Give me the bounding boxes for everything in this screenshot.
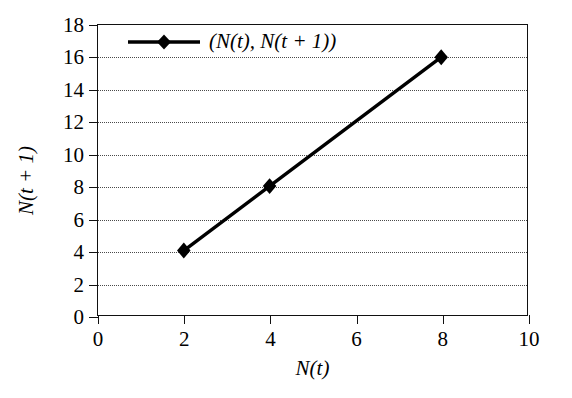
- y-tick-mark: [89, 285, 98, 286]
- y-tick-mark: [89, 187, 98, 188]
- x-tick-label: 4: [265, 329, 276, 350]
- y-tick-mark: [89, 25, 98, 26]
- x-tick-mark: [270, 315, 271, 324]
- x-tick-label: 0: [93, 329, 104, 350]
- x-tick-mark: [529, 315, 530, 324]
- y-tick-mark: [89, 90, 98, 91]
- y-tick-label: 18: [63, 15, 84, 36]
- y-tick-label: 8: [74, 177, 85, 198]
- legend-marker-icon: [128, 33, 200, 51]
- y-tick-label: 2: [74, 274, 85, 295]
- series-line: [184, 57, 441, 250]
- legend-label: (N(t), N(t + 1)): [209, 31, 336, 52]
- legend: (N(t), N(t + 1)): [128, 31, 336, 52]
- y-tick-mark: [89, 252, 98, 253]
- x-tick-mark: [443, 315, 444, 324]
- y-axis-title: N(t + 1): [16, 81, 37, 281]
- y-tick-label: 16: [63, 47, 84, 68]
- y-tick-mark: [89, 122, 98, 123]
- x-axis-title-text: N(t): [296, 356, 330, 380]
- y-tick-label: 6: [74, 209, 85, 230]
- y-tick-mark: [89, 317, 98, 318]
- y-tick-mark: [89, 155, 98, 156]
- x-tick-label: 8: [438, 329, 449, 350]
- y-tick-mark: [89, 57, 98, 58]
- y-tick-label: 4: [74, 242, 85, 263]
- x-tick-label: 6: [351, 329, 362, 350]
- x-tick-label: 2: [179, 329, 190, 350]
- x-tick-label: 10: [519, 329, 540, 350]
- x-tick-mark: [184, 315, 185, 324]
- figure: 024681012141618 0246810 (N(t), N(t + 1))…: [0, 0, 572, 398]
- y-tick-label: 0: [74, 307, 85, 328]
- data-series: [98, 25, 527, 315]
- y-tick-mark: [89, 220, 98, 221]
- plot-area: 024681012141618 0246810 (N(t), N(t + 1)): [97, 24, 528, 316]
- y-axis-title-text: N(t + 1): [14, 146, 38, 215]
- y-tick-label: 10: [63, 144, 84, 165]
- x-tick-mark: [357, 315, 358, 324]
- x-axis-title: N(t): [97, 358, 528, 379]
- y-tick-label: 12: [63, 112, 84, 133]
- y-tick-label: 14: [63, 79, 84, 100]
- x-tick-mark: [98, 315, 99, 324]
